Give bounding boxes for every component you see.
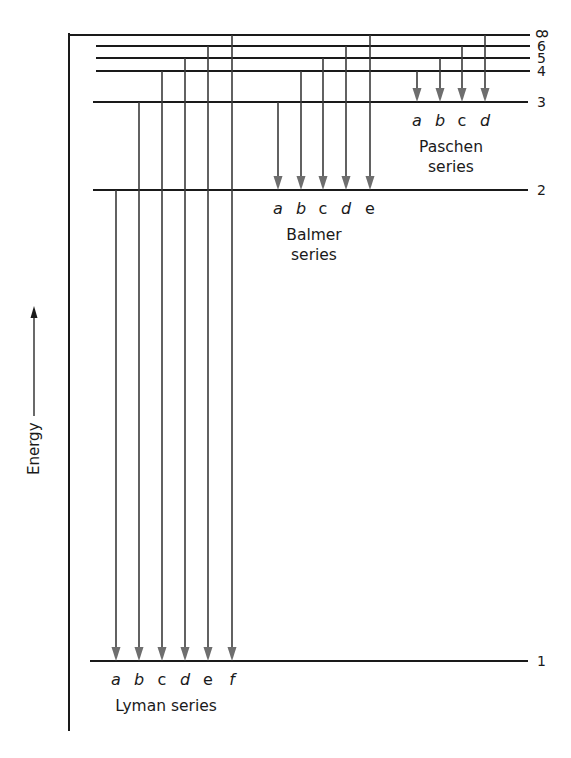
arrowhead-icon — [436, 88, 445, 102]
arrowhead-icon — [319, 176, 328, 190]
level-label: 3 — [537, 94, 546, 110]
arrowhead-icon — [342, 176, 351, 190]
transition-label: b — [134, 670, 144, 689]
arrowhead-icon — [481, 88, 490, 102]
transition-label: c — [158, 670, 167, 689]
transition-label: b — [296, 199, 306, 218]
transition-label: d — [180, 670, 191, 689]
transition-arrows — [112, 35, 490, 661]
series-title: Balmer — [286, 226, 342, 244]
level-label: 2 — [537, 182, 546, 198]
transition-label: d — [480, 111, 491, 130]
arrowhead-icon — [413, 88, 422, 102]
arrowhead-icon — [158, 647, 167, 661]
arrowhead-icon — [366, 176, 375, 190]
transition-label: c — [319, 199, 328, 218]
transition-label: f — [229, 670, 237, 689]
transition-label: a — [273, 199, 283, 218]
energy-axis-indicator: Energy — [25, 306, 43, 475]
transition-label: a — [412, 111, 422, 130]
transition-label: b — [435, 111, 445, 130]
transition-label: e — [203, 670, 213, 689]
hydrogen-energy-level-diagram: 8654321 abcdefLyman seriesabcdeBalmerser… — [0, 0, 571, 758]
arrowhead-icon — [228, 647, 237, 661]
level-label: 4 — [537, 63, 546, 79]
arrowhead-icon — [181, 647, 190, 661]
series-title: Paschen — [419, 138, 483, 156]
series-title: series — [428, 158, 474, 176]
transition-label: a — [111, 670, 121, 689]
arrowhead-icon — [297, 176, 306, 190]
series-title: series — [291, 246, 337, 264]
arrowhead-icon — [112, 647, 121, 661]
energy-axis-label: Energy — [25, 422, 43, 475]
arrowhead-icon — [458, 88, 467, 102]
transition-label: c — [458, 111, 467, 130]
series-title: Lyman series — [115, 697, 217, 715]
energy-arrowhead-icon — [31, 306, 38, 318]
arrowhead-icon — [135, 647, 144, 661]
transition-label: e — [365, 199, 375, 218]
energy-levels: 8654321 — [69, 29, 550, 669]
arrowhead-icon — [274, 176, 283, 190]
level-label: 1 — [537, 653, 546, 669]
transition-label: d — [341, 199, 352, 218]
series-labels: abcdefLyman seriesabcdeBalmerseriesabcdP… — [111, 111, 491, 715]
arrowhead-icon — [204, 647, 213, 661]
